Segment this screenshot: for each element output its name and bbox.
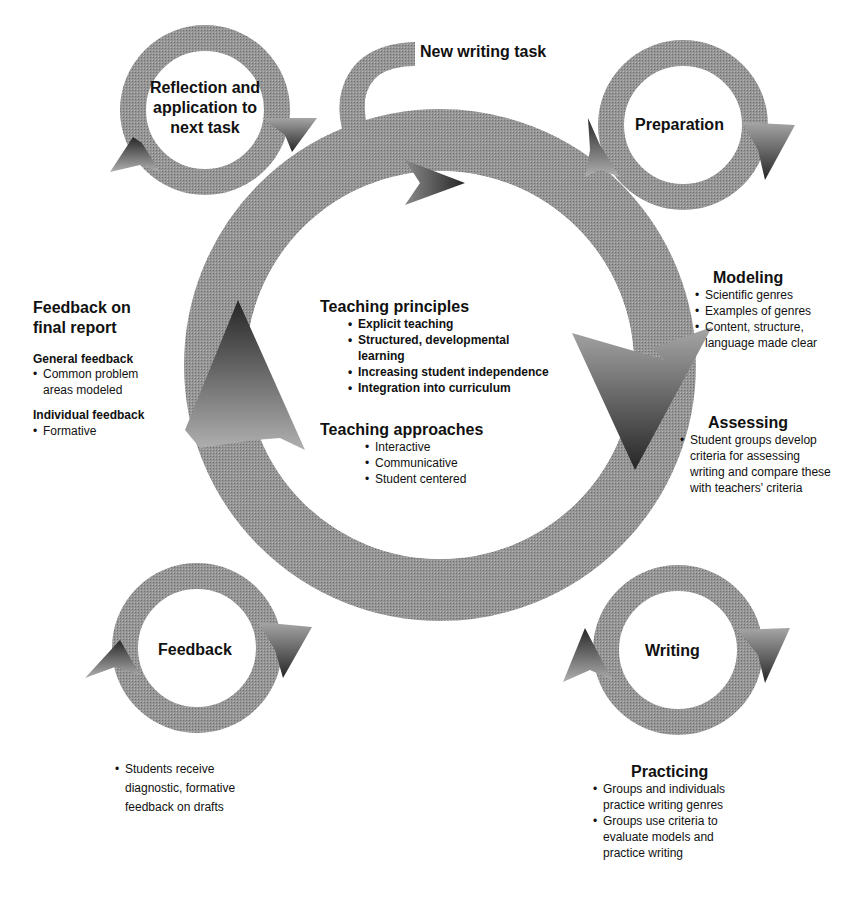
teaching-principles-list: Explicit teaching Structured, developmen…	[348, 316, 560, 396]
practicing-list: Groups and individuals practice writing …	[593, 781, 753, 861]
practicing-heading: Practicing	[631, 762, 753, 781]
teaching-principles-block: Teaching principles Explicit teaching St…	[320, 297, 560, 396]
final-report-heading: Feedback on final report	[33, 298, 193, 338]
general-feedback-list: Common problem areas modeled	[33, 366, 193, 398]
new-writing-task-label: New writing task	[420, 42, 546, 61]
list-item: Examples of genres	[695, 303, 845, 319]
assessing-block: Assessing Student groups develop criteri…	[680, 413, 840, 496]
individual-feedback-heading: Individual feedback	[33, 408, 193, 422]
feedback-drafts-list: Students receive diagnostic, formative f…	[115, 760, 245, 817]
general-feedback-heading: General feedback	[33, 352, 193, 366]
list-item: Common problem areas modeled	[33, 366, 153, 398]
assessing-heading: Assessing	[708, 413, 840, 432]
list-item: Increasing student independence	[348, 364, 560, 380]
writing-label: Writing	[645, 641, 700, 660]
list-item: Content, structure, language made clear	[695, 319, 830, 351]
list-item: Students receive diagnostic, formative f…	[115, 760, 245, 817]
feedback-label: Feedback	[158, 640, 232, 659]
teaching-principles-heading: Teaching principles	[320, 297, 560, 316]
teaching-approaches-block: Teaching approaches Interactive Communic…	[320, 420, 560, 487]
preparation-label: Preparation	[635, 115, 724, 134]
final-report-block: Feedback on final report General feedbac…	[33, 298, 193, 439]
feedback-drafts-block: Students receive diagnostic, formative f…	[115, 760, 245, 817]
list-item: Groups use criteria to evaluate models a…	[593, 813, 733, 861]
list-item: Explicit teaching	[348, 316, 560, 332]
list-item: Structured, developmental learning	[348, 332, 533, 364]
list-item: Formative	[33, 423, 193, 439]
modeling-block: Modeling Scientific genres Examples of g…	[695, 268, 845, 351]
modeling-list: Scientific genres Examples of genres Con…	[695, 287, 845, 351]
list-item: Integration into curriculum	[348, 380, 560, 396]
individual-feedback-list: Formative	[33, 423, 193, 439]
modeling-heading: Modeling	[713, 268, 845, 287]
reflection-label: Reflection and application to next task	[140, 78, 270, 138]
list-item: Interactive	[365, 439, 560, 455]
assessing-list: Student groups develop criteria for asse…	[680, 432, 840, 496]
teaching-approaches-list: Interactive Communicative Student center…	[365, 439, 560, 487]
list-item: Communicative	[365, 455, 560, 471]
list-item: Groups and individuals practice writing …	[593, 781, 743, 813]
list-item: Scientific genres	[695, 287, 845, 303]
practicing-block: Practicing Groups and individuals practi…	[593, 762, 753, 861]
teaching-approaches-heading: Teaching approaches	[320, 420, 560, 439]
list-item: Student groups develop criteria for asse…	[680, 432, 835, 496]
list-item: Student centered	[365, 471, 560, 487]
